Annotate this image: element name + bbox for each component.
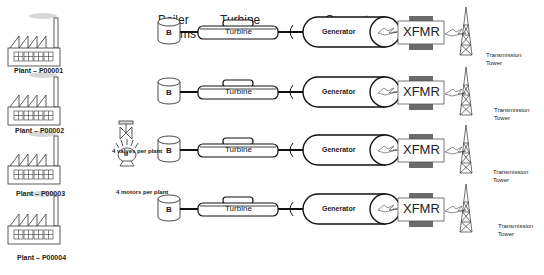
tower-label-line: Tower — [494, 114, 529, 122]
tower-label-line: Transmission — [486, 51, 521, 59]
factory-icon-4 — [8, 191, 60, 244]
plant-label-4: Plant – P00004 — [17, 254, 66, 261]
generator-label: Generator — [322, 205, 355, 212]
xfmr-label: XFMR — [403, 142, 440, 157]
valve-icon — [119, 121, 133, 139]
xfmr-label: XFMR — [403, 84, 440, 99]
tower-label-line: Transmission — [493, 168, 528, 176]
xfmr-label: XFMR — [403, 24, 440, 39]
tower-label-line: Tower — [493, 176, 528, 184]
transmission-tower-label: Transmission Tower — [486, 51, 521, 67]
factory-icon-1 — [8, 13, 60, 66]
tower-label-line: Transmission — [498, 222, 533, 230]
boiler-label: B — [166, 88, 172, 97]
xfmr-label: XFMR — [403, 201, 440, 216]
motors-note: 4 motors per plant — [116, 189, 168, 195]
plant-label-2: Plant – P00002 — [15, 127, 64, 134]
tower-label-line: Tower — [498, 230, 533, 238]
boiler-label: B — [166, 28, 172, 37]
diagram-graphics — [0, 0, 544, 275]
turbine-label: Turbine — [225, 145, 252, 154]
boiler-label: B — [166, 146, 172, 155]
transmission-tower-label: Transmission Tower — [493, 168, 528, 184]
turbine-label: Turbine — [225, 27, 252, 36]
turbine-label: Turbine — [225, 87, 252, 96]
generator-label: Generator — [322, 28, 355, 35]
factory-icon-2 — [8, 72, 60, 125]
factory-icon-3 — [8, 131, 60, 184]
turbine-label: Turbine — [225, 204, 252, 213]
plant-label-1: Plant – P00001 — [14, 67, 63, 74]
transmission-tower-label: Transmission Tower — [494, 106, 529, 122]
transmission-tower-label: Transmission Tower — [498, 222, 533, 238]
plant-label-3: Plant – P00003 — [16, 190, 65, 197]
boiler-label: B — [166, 205, 172, 214]
tower-label-line: Transmission — [494, 106, 529, 114]
generator-label: Generator — [322, 146, 355, 153]
generator-label: Generator — [322, 88, 355, 95]
tower-label-line: Tower — [486, 59, 521, 67]
valves-note: 4 valves per plant — [112, 148, 162, 154]
